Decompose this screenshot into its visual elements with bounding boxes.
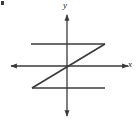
y-axis-label: y — [63, 1, 67, 10]
coordinate-plane-svg — [0, 0, 140, 125]
x-axis-label: x — [128, 60, 132, 69]
graph-figure: y x — [0, 0, 140, 125]
